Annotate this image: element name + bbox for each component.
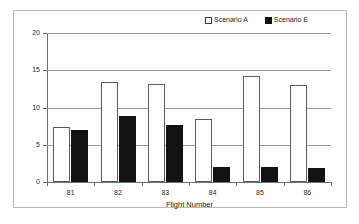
x-axis-tick-label: 83: [142, 189, 189, 197]
x-axis-tick-label: 86: [284, 189, 331, 197]
legend-label-scenario-e: Scenario E: [274, 16, 308, 24]
y-axis-tick-label: 5: [14, 141, 40, 149]
bar-86-scenario-a: [290, 85, 307, 182]
x-axis-title: Flight Number: [47, 200, 332, 209]
gridline: [47, 33, 331, 34]
x-axis-tick: [189, 182, 190, 186]
bar-83-scenario-a: [148, 84, 165, 182]
bar-81-scenario-e: [71, 130, 88, 182]
bar-85-scenario-a: [243, 76, 260, 182]
y-axis-tick-label: 0: [14, 178, 40, 186]
bar-81-scenario-a: [53, 127, 70, 182]
x-axis-tick: [142, 182, 143, 186]
y-axis-tick-label: 20: [14, 29, 40, 37]
chart-container: Scenario A Scenario E 05101520 818283848…: [0, 0, 359, 224]
x-axis-tick-label: 84: [189, 189, 236, 197]
gridline: [47, 145, 331, 146]
bar-84-scenario-a: [195, 119, 212, 182]
bar-82-scenario-a: [101, 82, 118, 182]
open-square-icon: [205, 17, 212, 24]
x-axis-tick: [331, 182, 332, 186]
x-axis-tick: [236, 182, 237, 186]
bar-86-scenario-e: [308, 168, 325, 182]
x-axis-tick: [94, 182, 95, 186]
x-axis-tick-label: 85: [236, 189, 283, 197]
y-axis-tick-label: 10: [14, 104, 40, 112]
x-axis-tick-label: 81: [47, 189, 94, 197]
filled-square-icon: [265, 17, 272, 24]
legend-entry-scenario-a: Scenario A: [205, 16, 248, 24]
x-axis-tick-label: 82: [94, 189, 141, 197]
y-axis-tick-label: 15: [14, 66, 40, 74]
legend-entry-scenario-e: Scenario E: [265, 16, 308, 24]
bar-84-scenario-e: [213, 167, 230, 182]
plot-area: [47, 33, 331, 182]
x-axis-tick: [284, 182, 285, 186]
bar-83-scenario-e: [166, 125, 183, 182]
bar-85-scenario-e: [261, 167, 278, 182]
chart-legend: Scenario A Scenario E: [205, 14, 308, 26]
gridline: [47, 108, 331, 109]
legend-label-scenario-a: Scenario A: [214, 16, 248, 24]
gridline: [47, 70, 331, 71]
x-axis-tick: [47, 182, 48, 186]
bar-82-scenario-e: [119, 116, 136, 182]
